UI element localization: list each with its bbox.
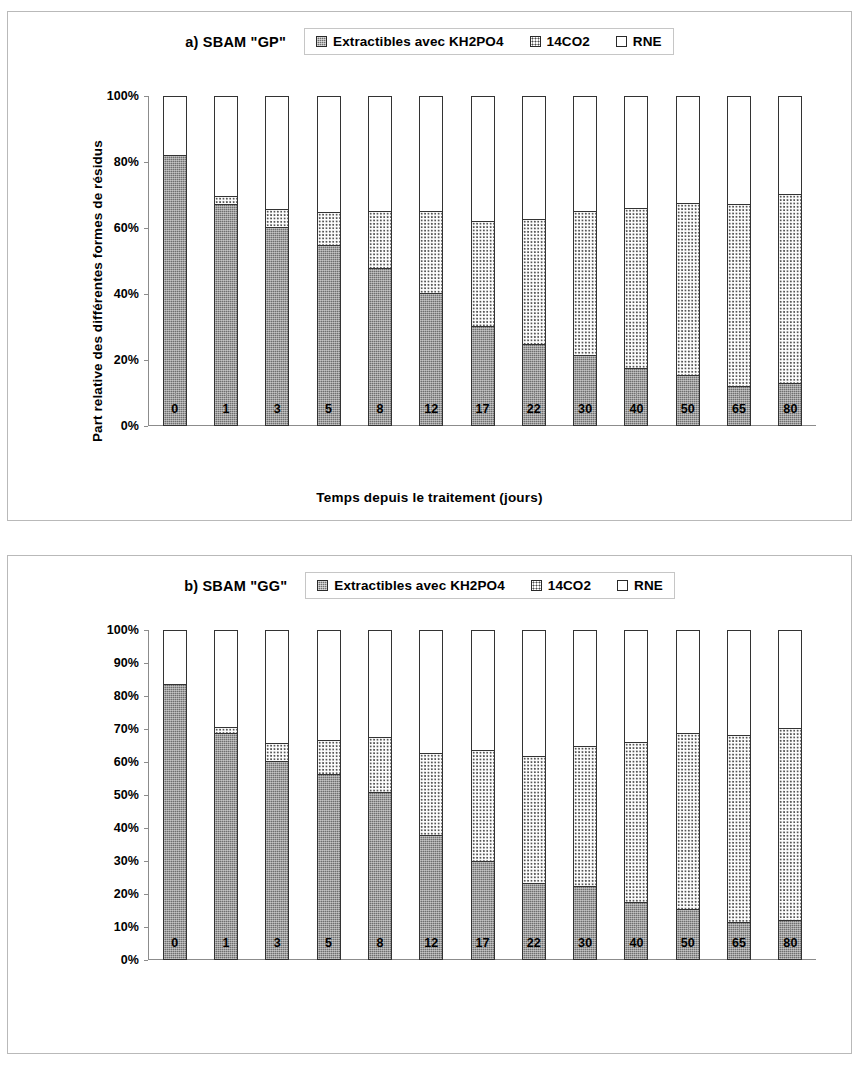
bar-segment-rne [266,97,288,210]
stacked-bar[interactable] [368,96,392,426]
y-tick-text: 40% [114,287,144,301]
stacked-bar[interactable] [778,630,802,960]
y-tick-text: 30% [114,854,144,868]
y-tick-label: 100% [96,623,148,637]
stacked-bar[interactable] [727,96,751,426]
x-tick: 65 [713,926,764,960]
stacked-bar[interactable] [471,630,495,960]
y-tick-mark [144,96,148,97]
x-tick-text: 50 [662,402,713,416]
x-tick: 80 [765,392,816,426]
x-tick-mark [636,392,637,397]
y-tick-mark [144,894,148,895]
stacked-bar[interactable] [573,96,597,426]
x-tick: 0 [149,926,200,960]
bar-segment-rne [369,97,391,212]
x-tick-text: 8 [354,936,405,950]
y-tick-mark [144,927,148,928]
bar-slot [508,630,559,960]
x-tick-mark [790,392,791,397]
stacked-bar[interactable] [419,96,443,426]
stacked-bar[interactable] [368,630,392,960]
bar-slot [765,630,816,960]
stacked-bar[interactable] [727,630,751,960]
x-tick-mark [380,926,381,931]
bar-segment-rne [318,97,340,213]
x-tick-mark [431,392,432,397]
stacked-bar[interactable] [471,96,495,426]
x-tick-text: 80 [765,402,816,416]
bar-slot [508,96,559,426]
legend-item-14co2: 14CO2 [531,578,591,593]
panel-a-legend: Extractibles avec KH2PO4 14CO2 RNE [304,28,674,55]
y-tick-mark [144,729,148,730]
y-tick-label: 10% [96,920,148,934]
y-tick-text: 50% [114,788,144,802]
stacked-bar[interactable] [317,630,341,960]
bar-segment-rne [164,97,186,156]
y-tick-text: 70% [114,722,144,736]
legend-label-extractibles: Extractibles avec KH2PO4 [334,578,505,593]
y-tick-mark [144,696,148,697]
bar-segment-rne [420,97,442,212]
white-swatch-icon [616,36,627,47]
x-tick-text: 1 [200,936,251,950]
stacked-bar[interactable] [522,96,546,426]
y-tick-mark [144,663,148,664]
white-swatch-icon [617,580,628,591]
x-tick: 12 [406,926,457,960]
stacked-bar[interactable] [624,96,648,426]
bar-segment-rne [164,631,186,685]
y-tick-label: 80% [96,689,148,703]
stacked-bar[interactable] [522,630,546,960]
stacked-bar[interactable] [778,96,802,426]
y-tick-label: 40% [96,287,148,301]
stacked-bar[interactable] [573,630,597,960]
stacked-bar[interactable] [317,96,341,426]
bar-segment-rne [574,631,596,747]
y-tick-label: 90% [96,656,148,670]
x-tick: 8 [354,392,405,426]
panel-a-x-ticks: 013581217223040506580 [149,392,816,426]
x-tick-text: 50 [662,936,713,950]
bar-segment-14co2 [369,212,391,269]
panel-b-bars [149,630,816,960]
y-tick-mark [144,294,148,295]
y-tick-mark [144,762,148,763]
x-tick-mark [329,392,330,397]
stacked-bar[interactable] [265,96,289,426]
x-tick-mark [380,392,381,397]
y-tick-text: 20% [114,353,144,367]
panel-b-plot-area: 100%90%80%70%60%50%40%30%20%10%0% 013581… [96,622,816,994]
stacked-bar[interactable] [214,630,238,960]
stacked-bar[interactable] [163,96,187,426]
stacked-bar[interactable] [163,630,187,960]
stacked-bar[interactable] [676,96,700,426]
y-tick-mark [144,360,148,361]
panel-a-title: a) SBAM "GP" [185,34,286,50]
stacked-bar[interactable] [265,630,289,960]
stacked-bar[interactable] [214,96,238,426]
x-tick-mark [431,926,432,931]
dotted-swatch-icon [531,580,542,591]
x-tick: 5 [303,926,354,960]
y-tick-mark [144,426,148,427]
bar-slot [406,630,457,960]
bar-slot [354,96,405,426]
bar-segment-rne [625,97,647,209]
y-tick-label: 0% [96,953,148,967]
stacked-bar[interactable] [624,630,648,960]
x-tick: 0 [149,392,200,426]
x-tick: 30 [560,392,611,426]
x-tick-mark [226,926,227,931]
bar-slot [662,630,713,960]
stacked-bar[interactable] [419,630,443,960]
panel-b-header: b) SBAM "GG" Extractibles avec KH2PO4 14… [8,572,851,599]
bar-segment-14co2 [779,729,801,921]
x-tick: 65 [713,392,764,426]
x-tick-text: 40 [611,936,662,950]
y-tick-text: 100% [107,89,144,103]
bar-segment-14co2 [266,210,288,228]
stacked-bar[interactable] [676,630,700,960]
x-tick-mark [636,926,637,931]
